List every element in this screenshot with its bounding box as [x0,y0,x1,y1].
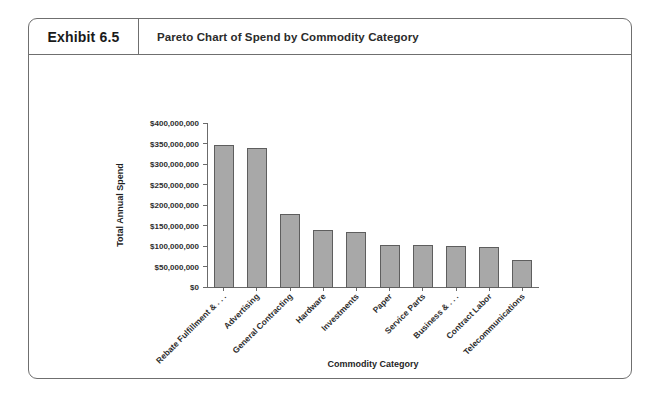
bar-series [214,146,532,287]
chart-svg: $0$50,000,000$100,000,000$150,000,000$20… [29,55,631,379]
category-label: Hardware [294,291,328,325]
bar [480,248,499,287]
x-axis [207,287,539,291]
exhibit-header: Exhibit 6.5 Pareto Chart of Spend by Com… [29,19,631,54]
y-tick-label: $400,000,000 [150,119,199,128]
y-tick-label: $50,000,000 [155,263,200,272]
exhibit-title-label: Pareto Chart of Spend by Commodity Categ… [157,31,419,43]
bar [347,233,366,287]
category-label: Paper [370,291,394,315]
bar [214,146,233,287]
y-tick-label: $200,000,000 [150,201,199,210]
y-tick-label: $350,000,000 [150,140,199,149]
y-tick-label: $0 [190,283,199,292]
category-label: General Contracting [230,291,294,355]
exhibit-number-cell: Exhibit 6.5 [29,19,139,54]
x-axis-title: Commodity Category [327,359,418,369]
category-label: Rebate Fulfillment & . . . [154,291,228,365]
exhibit-number-label: Exhibit 6.5 [47,29,119,45]
bar [413,246,432,287]
y-axis: $0$50,000,000$100,000,000$150,000,000$20… [150,119,207,292]
category-labels: Rebate Fulfillment & . . .AdvertisingGen… [154,291,527,366]
bar [247,148,266,287]
y-tick-label: $250,000,000 [150,181,199,190]
pareto-chart: $0$50,000,000$100,000,000$150,000,000$20… [29,55,631,379]
exhibit-frame: Exhibit 6.5 Pareto Chart of Spend by Com… [28,18,632,379]
bar [447,247,466,287]
y-tick-label: $150,000,000 [150,222,199,231]
bar [281,214,300,287]
category-label: Telecommunications [461,291,527,357]
y-tick-label: $100,000,000 [150,242,199,251]
bar [314,231,333,287]
bar [380,245,399,287]
exhibit-title-cell: Pareto Chart of Spend by Commodity Categ… [139,19,631,54]
y-axis-title: Total Annual Spend [115,163,125,247]
y-tick-label: $300,000,000 [150,160,199,169]
bar [513,260,532,287]
